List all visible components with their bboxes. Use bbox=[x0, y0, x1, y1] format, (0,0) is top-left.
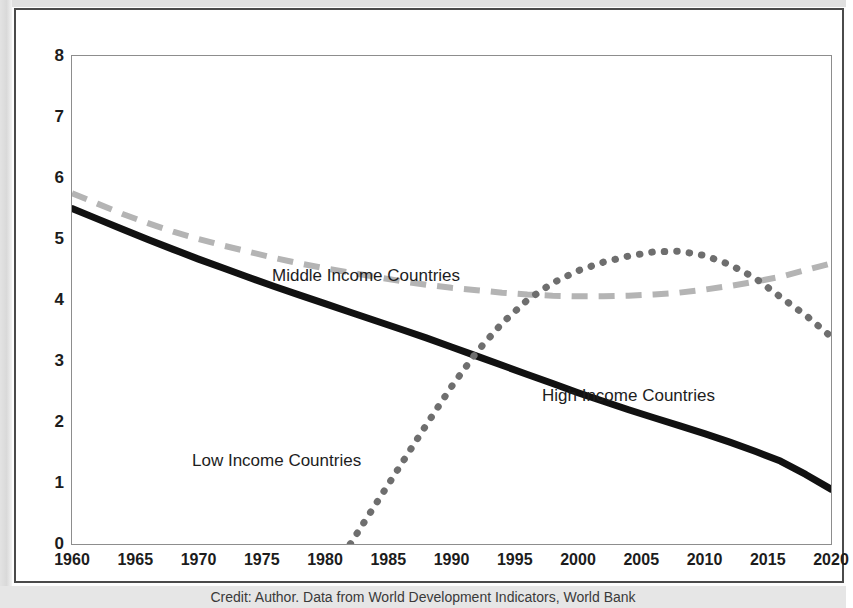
x-tick-label: 1990 bbox=[422, 552, 482, 568]
y-tick-label: 3 bbox=[30, 352, 64, 369]
plot-area: Middle Income Countries High Income Coun… bbox=[71, 55, 832, 545]
x-tick-label: 1995 bbox=[485, 552, 545, 568]
y-tick-label: 7 bbox=[30, 108, 64, 125]
y-tick-label: 4 bbox=[30, 291, 64, 308]
x-tick-label: 2015 bbox=[738, 552, 798, 568]
credit-caption: Credit: Author. Data from World Developm… bbox=[0, 589, 846, 608]
x-tick-label: 2000 bbox=[548, 552, 608, 568]
x-tick-label: 1965 bbox=[105, 552, 165, 568]
scan-margin-top bbox=[0, 0, 846, 7]
x-tick-label: 1960 bbox=[42, 552, 102, 568]
annotation-low-income: Low Income Countries bbox=[192, 451, 361, 471]
figure-frame: 012345678 Middle Income Countries High I… bbox=[14, 8, 844, 583]
x-tick-label: 1980 bbox=[295, 552, 355, 568]
y-tick-label: 8 bbox=[30, 47, 64, 64]
annotation-middle-income: Middle Income Countries bbox=[272, 266, 460, 286]
series-high-income-line bbox=[72, 209, 831, 490]
scan-margin-left bbox=[0, 0, 12, 608]
x-tick-label: 2010 bbox=[675, 552, 735, 568]
x-tick-label: 1970 bbox=[169, 552, 229, 568]
x-tick-label: 2020 bbox=[801, 552, 853, 568]
x-tick-label: 1975 bbox=[232, 552, 292, 568]
annotation-high-income: High Income Countries bbox=[542, 386, 715, 406]
y-axis: 012345678 bbox=[24, 55, 64, 545]
chart-canvas bbox=[72, 56, 831, 544]
x-axis: 1960196519701975198019851990199520002005… bbox=[71, 552, 832, 578]
y-tick-label: 6 bbox=[30, 169, 64, 186]
y-tick-label: 1 bbox=[30, 474, 64, 491]
x-tick-label: 1985 bbox=[358, 552, 418, 568]
x-tick-label: 2005 bbox=[611, 552, 671, 568]
y-tick-label: 0 bbox=[30, 535, 64, 552]
y-tick-label: 5 bbox=[30, 230, 64, 247]
y-tick-label: 2 bbox=[30, 413, 64, 430]
